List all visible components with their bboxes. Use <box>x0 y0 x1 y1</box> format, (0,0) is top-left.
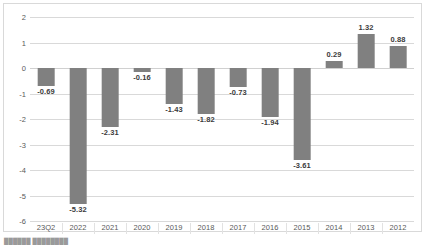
x-axis-separator <box>254 223 255 234</box>
bar-value-label: -5.32 <box>69 205 86 214</box>
x-axis-tick-label: 2012 <box>389 223 406 232</box>
bar-value-label: -2.31 <box>101 128 118 137</box>
bar[interactable] <box>134 68 151 72</box>
bar[interactable] <box>262 68 279 117</box>
bar-value-label: -0.73 <box>229 88 246 97</box>
x-axis-line <box>30 221 414 222</box>
y-axis-tick-label: 1 <box>22 38 26 47</box>
y-axis-tick-label: -4 <box>19 166 26 175</box>
x-axis-tick-label: 2018 <box>197 223 214 232</box>
bar-value-label: -1.82 <box>197 115 214 124</box>
y-axis-tick-label: -3 <box>19 140 26 149</box>
bar-series: -0.69-5.32-2.31-0.16-1.43-1.82-0.73-1.94… <box>30 17 414 221</box>
bar-value-label: -0.16 <box>133 73 150 82</box>
bar-group: -2.31 <box>94 17 126 221</box>
x-axis-tick-label: 2017 <box>229 223 246 232</box>
y-axis-tick-label: 0 <box>22 64 26 73</box>
y-axis-tick-label: -5 <box>19 191 26 200</box>
x-axis-tick-label: 2015 <box>293 223 310 232</box>
bar-value-label: -1.43 <box>165 105 182 114</box>
bar-group: 1.32 <box>350 17 382 221</box>
bar[interactable] <box>38 68 55 86</box>
bar-value-label: -0.69 <box>37 87 54 96</box>
bar[interactable] <box>294 68 311 160</box>
x-axis-tick-label: 23Q2 <box>37 223 56 232</box>
x-axis-tick-label: 2016 <box>261 223 278 232</box>
x-axis-separator <box>126 223 127 234</box>
bar-value-label: 1.32 <box>359 23 374 32</box>
plot-area: -0.69-5.32-2.31-0.16-1.43-1.82-0.73-1.94… <box>30 17 414 221</box>
bar-group: -3.61 <box>286 17 318 221</box>
bar[interactable] <box>198 68 215 114</box>
bar-group: -1.82 <box>190 17 222 221</box>
chart-screenshot: 210-1-2-3-4-5-6 -0.69-5.32-2.31-0.16-1.4… <box>0 0 427 249</box>
x-axis-tick-label: 2020 <box>133 223 150 232</box>
x-axis-tick-label: 2022 <box>69 223 86 232</box>
y-axis-labels: 210-1-2-3-4-5-6 <box>0 17 30 221</box>
x-axis-separator <box>382 223 383 234</box>
y-axis-tick-label: -2 <box>19 115 26 124</box>
bar-group: -0.69 <box>30 17 62 221</box>
x-axis-tick-label: 2013 <box>357 223 374 232</box>
x-axis-tick-label: 2021 <box>101 223 118 232</box>
x-axis-separator <box>350 223 351 234</box>
x-axis-labels: 23Q2202220212020201920182017201620152014… <box>30 223 414 235</box>
bar-group: 0.88 <box>382 17 414 221</box>
y-axis-tick-label: 2 <box>22 13 26 22</box>
bar-value-label: -3.61 <box>293 161 310 170</box>
bar-value-label: 0.29 <box>327 50 342 59</box>
bar-group: -1.94 <box>254 17 286 221</box>
x-axis-separator <box>62 223 63 234</box>
bar[interactable] <box>326 61 343 68</box>
bar-group: -0.16 <box>126 17 158 221</box>
chart-caption: ██████ ████████ <box>4 238 68 244</box>
y-axis-tick-label: -1 <box>19 89 26 98</box>
bar-group: -5.32 <box>62 17 94 221</box>
bar-group: -0.73 <box>222 17 254 221</box>
x-axis-separator <box>190 223 191 234</box>
bar-value-label: -1.94 <box>261 118 278 127</box>
x-axis-tick-label: 2019 <box>165 223 182 232</box>
bar[interactable] <box>358 34 375 68</box>
bar[interactable] <box>390 46 407 68</box>
bar[interactable] <box>102 68 119 127</box>
x-axis-separator <box>318 223 319 234</box>
y-axis-tick-label: -6 <box>19 217 26 226</box>
bar[interactable] <box>230 68 247 87</box>
bar-group: 0.29 <box>318 17 350 221</box>
bar[interactable] <box>70 68 87 204</box>
x-axis-separator <box>286 223 287 234</box>
x-axis-separator <box>222 223 223 234</box>
x-axis-separator <box>158 223 159 234</box>
bar-group: -1.43 <box>158 17 190 221</box>
bar-value-label: 0.88 <box>391 35 406 44</box>
x-axis-separator <box>94 223 95 234</box>
x-axis-tick-label: 2014 <box>325 223 342 232</box>
bar[interactable] <box>166 68 183 104</box>
